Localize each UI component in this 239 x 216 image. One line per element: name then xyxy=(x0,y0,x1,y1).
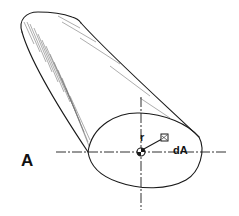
panel-label: A xyxy=(21,151,33,171)
shading-hatch xyxy=(24,16,170,146)
cylinder-left-edge xyxy=(22,32,88,152)
area-element-icon xyxy=(161,134,168,141)
radius-line xyxy=(142,139,162,150)
cylinder-right-edge xyxy=(81,23,199,137)
cylinder-diagram xyxy=(0,0,239,216)
radius-label: r xyxy=(140,131,144,143)
area-element-label: dA xyxy=(173,144,188,156)
